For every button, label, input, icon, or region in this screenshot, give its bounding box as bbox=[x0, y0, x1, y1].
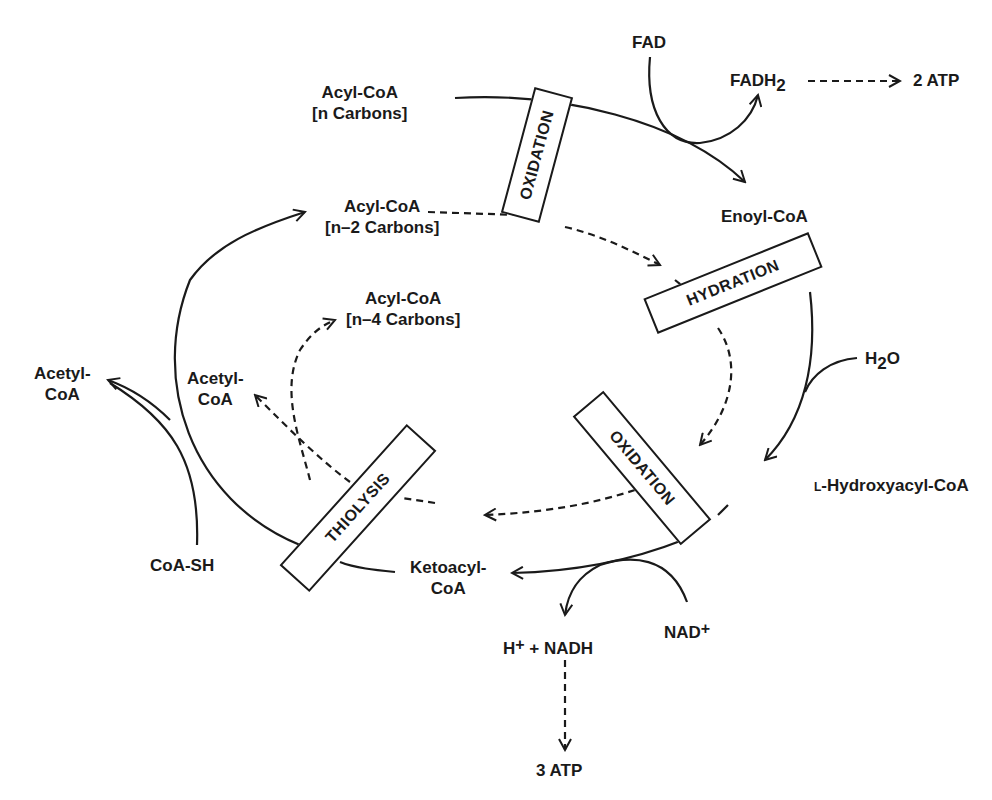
label-line: Acyl-CoA bbox=[346, 288, 460, 309]
beta-oxidation-diagram bbox=[0, 0, 992, 800]
label-line: [n Carbons] bbox=[312, 103, 407, 124]
label-3-atp: 3 ATP bbox=[536, 760, 582, 781]
h2o-o: O bbox=[887, 349, 900, 368]
label-acetyl-coa-inner: Acetyl- CoA bbox=[187, 368, 244, 410]
label-enoyl-coa: Enoyl-CoA bbox=[721, 206, 808, 227]
label-ketoacyl-coa: Ketoacyl- CoA bbox=[410, 557, 487, 599]
h2o-h: H bbox=[865, 349, 877, 368]
arrow-to-acetyl-coa-outer bbox=[108, 380, 170, 420]
label-line: Acyl-CoA bbox=[325, 196, 439, 217]
nad-base: NAD bbox=[664, 623, 701, 642]
line-coash bbox=[110, 383, 197, 545]
label-acyl-coa-n: Acyl-CoA [n Carbons] bbox=[312, 82, 407, 124]
nadh-rest: + NADH bbox=[525, 639, 593, 658]
label-nad-plus: NAD+ bbox=[664, 622, 710, 643]
line-hydroxyacyl-to-oxidation2 bbox=[718, 505, 728, 515]
label-h2o: H2O bbox=[865, 348, 900, 369]
label-2-atp: 2 ATP bbox=[913, 70, 959, 91]
label-line: CoA bbox=[410, 578, 487, 599]
nad-sup: + bbox=[701, 620, 710, 637]
label-acetyl-coa-outer: Acetyl- CoA bbox=[34, 363, 91, 405]
h2o-sub: 2 bbox=[877, 354, 886, 373]
dash-thiolysis-to-acetyl bbox=[255, 395, 350, 482]
label-line: Acyl-CoA bbox=[312, 82, 407, 103]
h-sup: + bbox=[515, 636, 524, 653]
label-hydroxyacyl-coa: L-Hydroxyacyl-CoA bbox=[814, 475, 969, 498]
arrow-hydration-to-hydroxyacyl bbox=[765, 292, 812, 460]
label-fad: FAD bbox=[632, 32, 666, 53]
dash-ox-to-hydration bbox=[565, 227, 660, 265]
label-h-nadh: H+ + NADH bbox=[503, 638, 593, 659]
label-line: Acetyl- bbox=[187, 368, 244, 389]
line-ketoacyl-to-thiolysis bbox=[340, 562, 395, 572]
arrow-h2o bbox=[805, 358, 857, 392]
dash-hydration-to-ox2 bbox=[700, 328, 731, 445]
label-line: Ketoacyl- bbox=[410, 557, 487, 578]
h: H bbox=[503, 639, 515, 658]
label-line: [n–2 Carbons] bbox=[325, 217, 439, 238]
arrow-acyl-to-enoyl bbox=[455, 97, 745, 182]
dash-thiolysis-in bbox=[402, 498, 435, 503]
dash-ox2-to-thiolysis bbox=[485, 490, 635, 515]
dash-to-acyl-n4 bbox=[291, 320, 335, 480]
fadh-sub: 2 bbox=[776, 76, 785, 95]
label-acyl-coa-n4: Acyl-CoA [n–4 Carbons] bbox=[346, 288, 460, 330]
label-line: CoA bbox=[187, 389, 244, 410]
label-line: [n–4 Carbons] bbox=[346, 309, 460, 330]
fadh-base: FADH bbox=[730, 71, 776, 90]
label-coa-sh: CoA-SH bbox=[150, 555, 214, 576]
label-line: Acetyl- bbox=[34, 363, 91, 384]
label-line: CoA bbox=[34, 384, 91, 405]
label-fadh2: FADH2 bbox=[730, 70, 786, 91]
label-acyl-coa-n2: Acyl-CoA [n–2 Carbons] bbox=[325, 196, 439, 238]
label-name: -Hydroxyacyl-CoA bbox=[821, 476, 968, 495]
arrow-oxidation2-to-ketoacyl bbox=[512, 540, 683, 573]
